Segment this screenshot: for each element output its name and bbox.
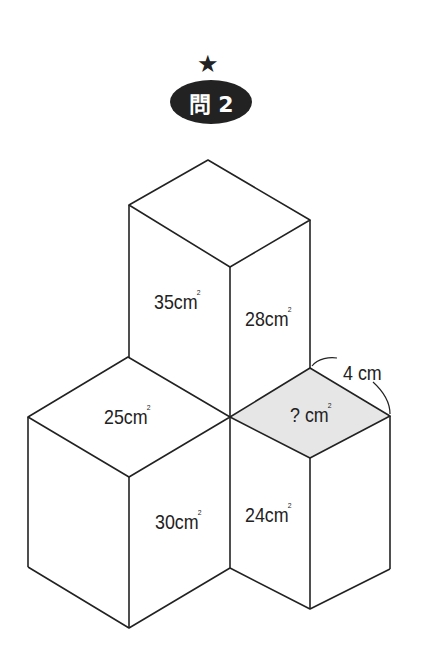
face-label-30: 30cm2 <box>155 510 202 534</box>
edge-length-label: 4 cm <box>343 361 382 385</box>
face-label-25: 25cm2 <box>104 405 151 429</box>
face-label-24: 24cm2 <box>245 503 292 527</box>
edge-annotation-arc <box>312 358 337 366</box>
face-label-unknown: ? cm2 <box>290 403 332 427</box>
top-box-top-face <box>129 160 310 267</box>
boxes-diagram <box>0 0 421 660</box>
face-label-28: 28cm2 <box>245 307 292 331</box>
face-label-35: 35cm2 <box>154 290 201 314</box>
